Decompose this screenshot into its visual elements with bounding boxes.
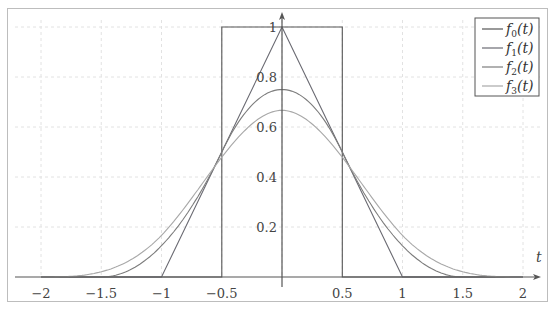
axes: t	[15, 12, 542, 287]
legend-label: f1(t)	[505, 40, 533, 58]
x-axis-label: t	[536, 249, 542, 265]
y-tick-label: 0.8	[256, 70, 277, 85]
legend-label: f3(t)	[505, 78, 533, 96]
x-tick-label: 0.5	[332, 286, 353, 301]
y-tick-label: 1	[269, 20, 277, 35]
x-tick-label: −1	[152, 286, 171, 301]
x-tick-label: −1.5	[85, 286, 117, 301]
legend-label: f2(t)	[505, 59, 533, 77]
grid-lines	[15, 20, 540, 277]
x-tick-label: −2	[31, 286, 50, 301]
legend: f0(t)f1(t)f2(t)f3(t)	[475, 18, 539, 96]
x-tick-label: −0.5	[206, 286, 238, 301]
x-tick-label: 2	[519, 286, 527, 301]
legend-label: f0(t)	[505, 21, 533, 39]
y-tick-label: 0.6	[256, 120, 277, 135]
y-tick-label: 0.4	[256, 170, 277, 185]
x-tick-label: 1.5	[452, 286, 473, 301]
x-tick-label: 1	[398, 286, 406, 301]
tick-labels: −2−1.5−1−0.50.511.520.20.40.60.81	[31, 20, 527, 301]
chart-plot: t −2−1.5−1−0.50.511.520.20.40.60.81 f0(t…	[0, 0, 556, 310]
y-tick-label: 0.2	[256, 220, 277, 235]
